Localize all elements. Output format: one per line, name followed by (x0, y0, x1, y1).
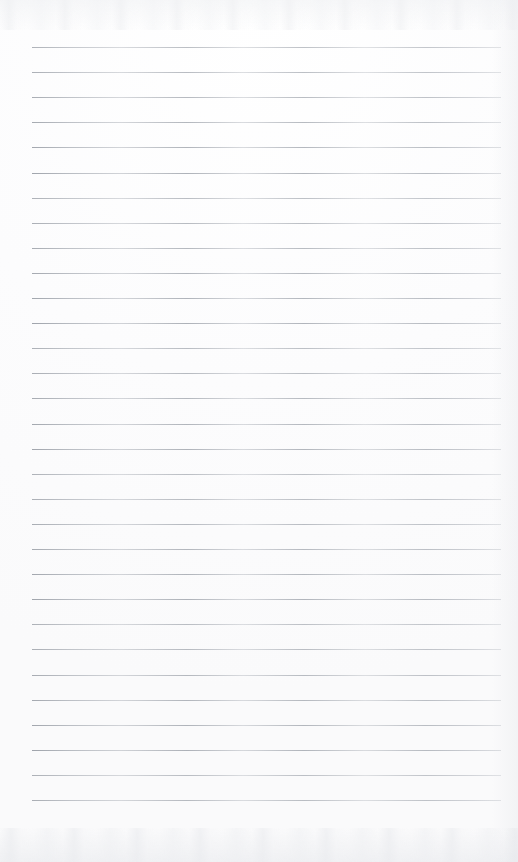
ruled-line (32, 675, 501, 676)
ruled-line (32, 198, 501, 199)
ruled-line (32, 725, 501, 726)
ruled-line (32, 248, 501, 249)
ruled-line (32, 499, 501, 500)
ruled-line (32, 574, 501, 575)
ruled-line (32, 97, 501, 98)
ruled-line (32, 273, 501, 274)
ruled-line (32, 323, 501, 324)
ruled-line (32, 298, 501, 299)
ruled-line (32, 750, 501, 751)
ruled-line (32, 373, 501, 374)
ruled-line-group (0, 0, 518, 862)
ruled-line (32, 72, 501, 73)
ruled-line (32, 599, 501, 600)
ruled-line (32, 47, 501, 48)
ruled-line (32, 800, 501, 801)
ruled-line (32, 700, 501, 701)
ruled-line (32, 474, 501, 475)
ruled-line (32, 649, 501, 650)
ruled-line (32, 348, 501, 349)
ruled-line (32, 449, 501, 450)
scanner-noise-bottom-band (0, 828, 518, 862)
ruled-line (32, 775, 501, 776)
ruled-line (32, 424, 501, 425)
ruled-line (32, 398, 501, 399)
ruled-line (32, 223, 501, 224)
ruled-line (32, 173, 501, 174)
ruled-line (32, 147, 501, 148)
ruled-line (32, 549, 501, 550)
scanned-page (0, 0, 518, 862)
ruled-line (32, 122, 501, 123)
ruled-line (32, 524, 501, 525)
ruled-line (32, 624, 501, 625)
